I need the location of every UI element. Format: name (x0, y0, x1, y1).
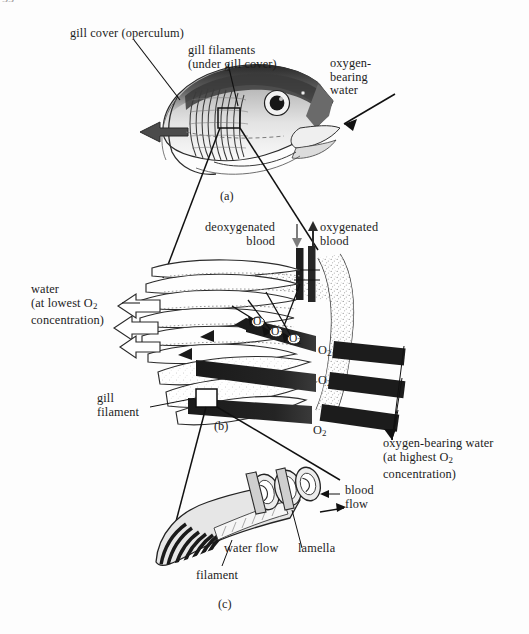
label-o2-bubble-1: O2 (253, 315, 265, 329)
label-o2-band-3: O2 (313, 424, 327, 441)
label-oxygen-bearing-water-b: oxygen-bearing water (at highest O2 conc… (383, 437, 494, 481)
panel-c-filament (156, 465, 346, 585)
label-gill-cover: gill cover (operculum) (70, 27, 184, 41)
figure-fish-gills: 55 (0, 0, 529, 634)
caption-panel-a: (a) (220, 189, 234, 204)
label-o2-band-2: O2 (318, 374, 332, 391)
label-oxygen-bearing-water-a: oxygen- bearing water (330, 57, 371, 98)
label-water-lowest-o2: water (at lowest O2 concentration) (31, 283, 104, 327)
label-o2-bubble-3: O2 (289, 332, 301, 346)
label-blood-flow: blood flow (345, 484, 374, 511)
label-o2-bubble-2: O2 (271, 325, 283, 339)
label-gill-filament-b: gill filament (97, 392, 139, 419)
label-gill-filaments: gill filaments (under gill cover) (188, 44, 277, 71)
caption-panel-c: (c) (218, 597, 232, 612)
caption-panel-b: (b) (214, 419, 228, 434)
label-o2-band-1: O2 (318, 344, 332, 361)
label-water-flow: water flow (224, 542, 278, 556)
label-filament: filament (196, 569, 238, 583)
label-oxygenated-blood: oxygenated blood (320, 221, 378, 248)
label-deoxygenated-blood: deoxygenated blood (205, 221, 275, 248)
label-lamella: lamella (298, 542, 335, 556)
